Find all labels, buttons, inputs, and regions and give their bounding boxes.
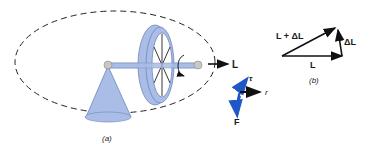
caption-b: (b) xyxy=(309,76,319,85)
label-base-L: L xyxy=(310,60,316,70)
panel-b: L + ΔL ΔL L (b) xyxy=(276,28,356,85)
label-L-plus-dL: L + ΔL xyxy=(276,31,304,41)
label-F: F xyxy=(234,117,240,127)
gyroscope-diagram: L τ r F (a) L + ΔL ΔL L (b) xyxy=(0,0,373,151)
label-r: r xyxy=(265,88,268,97)
label-L: L xyxy=(232,59,238,70)
vector-dL xyxy=(338,30,342,56)
panel-a: L τ r F (a) xyxy=(15,11,268,143)
caption-a: (a) xyxy=(102,134,112,143)
end-ball xyxy=(194,61,202,69)
label-tau: τ xyxy=(249,74,253,83)
label-dL: ΔL xyxy=(344,37,356,47)
pivot-ball xyxy=(104,61,112,69)
